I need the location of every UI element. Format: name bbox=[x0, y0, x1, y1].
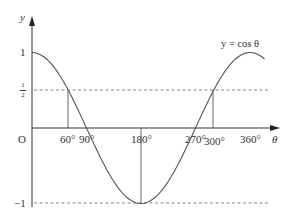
y-tick-neg-1: −1 bbox=[14, 198, 26, 209]
x-tick-300: 300° bbox=[204, 136, 225, 147]
x-tick-270: 270° bbox=[185, 134, 206, 145]
y-tick-1: 1 bbox=[20, 47, 26, 58]
y-tick-half-numerator: 1 bbox=[21, 81, 25, 89]
x-axis-arrow-icon bbox=[270, 125, 280, 131]
x-tick-180: 180° bbox=[131, 134, 152, 145]
y-tick-half-denominator: 2 bbox=[21, 91, 25, 99]
y-tick-half: 1 2 bbox=[20, 82, 26, 99]
x-tick-90: 90° bbox=[79, 134, 94, 145]
y-axis-arrow-icon bbox=[29, 16, 35, 26]
curve-label: y = cos θ bbox=[221, 39, 259, 50]
origin-label: O bbox=[18, 134, 26, 145]
x-tick-360: 360° bbox=[240, 134, 261, 145]
y-axis-label: y bbox=[20, 12, 25, 23]
x-axis-label: θ bbox=[272, 134, 277, 145]
cosine-graph bbox=[0, 0, 292, 210]
x-tick-60: 60° bbox=[60, 134, 75, 145]
